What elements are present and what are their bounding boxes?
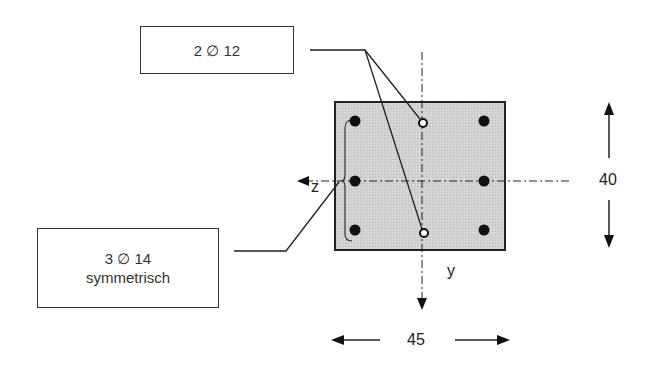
y-axis-label: y (447, 262, 455, 280)
rebar-solid (350, 225, 361, 236)
y-axis-arrow-icon (417, 298, 427, 310)
dim-width-label: 45 (407, 331, 425, 349)
dim-width-arrow-right-icon (497, 335, 510, 345)
rebar-solid (350, 116, 361, 127)
rebar-open (420, 229, 428, 237)
rebar-solid (350, 176, 361, 187)
label-top-bars: 2 ∅ 12 (140, 26, 294, 74)
z-axis-label: z (311, 178, 319, 196)
dim-height-arrow-up-icon (604, 102, 614, 115)
cross-section-drawing (0, 0, 658, 379)
label-top-bars-text: 2 ∅ 12 (194, 41, 240, 60)
dim-height-arrow-down-icon (604, 235, 614, 248)
dim-height-label: 40 (599, 171, 617, 189)
label-side-bars-line1: 3 ∅ 14 (105, 249, 151, 268)
rebar-solid (479, 176, 490, 187)
label-side-bars: 3 ∅ 14 symmetrisch (37, 228, 219, 308)
z-axis-arrow-icon (297, 176, 309, 186)
rebar-open (419, 119, 427, 127)
label-side-bars-line2: symmetrisch (86, 268, 170, 287)
rebar-solid (479, 225, 490, 236)
dim-width-arrow-left-icon (331, 335, 344, 345)
leader-side-bars (234, 182, 339, 251)
rebar-solid (479, 116, 490, 127)
